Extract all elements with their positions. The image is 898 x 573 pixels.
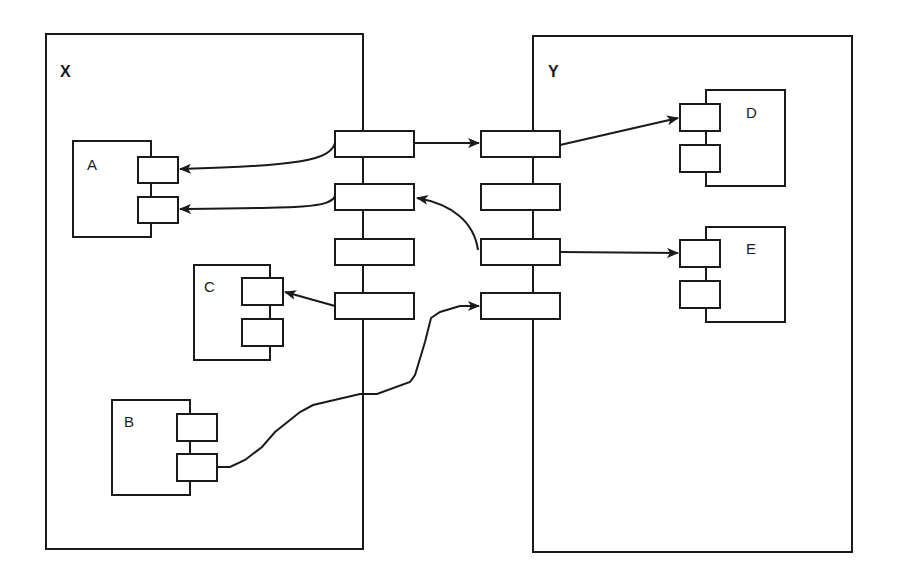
component-d-port-1[interactable] bbox=[680, 104, 720, 131]
diagram-canvas bbox=[0, 0, 898, 573]
component-c-port-1[interactable] bbox=[242, 278, 283, 305]
component-d-label: D bbox=[746, 105, 757, 120]
x-port-1[interactable] bbox=[335, 131, 414, 157]
component-e-port-1[interactable] bbox=[680, 240, 720, 267]
x-port-3[interactable] bbox=[335, 239, 414, 265]
y-port-2[interactable] bbox=[481, 184, 560, 210]
y-port-3[interactable] bbox=[481, 239, 560, 265]
y-port-4[interactable] bbox=[481, 293, 560, 319]
component-c-label: C bbox=[204, 279, 215, 294]
component-b-port-1[interactable] bbox=[177, 414, 217, 441]
component-e-port-2[interactable] bbox=[680, 281, 720, 308]
component-a-port-2[interactable] bbox=[138, 197, 178, 223]
connector-y3-to-e1[interactable] bbox=[560, 252, 678, 253]
x-port-4[interactable] bbox=[335, 293, 414, 319]
component-e-label: E bbox=[746, 241, 756, 256]
component-c-port-2[interactable] bbox=[242, 319, 283, 346]
container-y-label: Y bbox=[548, 64, 559, 80]
component-a-label: A bbox=[87, 157, 97, 172]
connector-y3-to-x2[interactable] bbox=[417, 198, 478, 250]
component-b-port-2[interactable] bbox=[177, 454, 217, 481]
container-x-label: X bbox=[60, 64, 71, 80]
component-b-label: B bbox=[124, 414, 134, 429]
component-a-port-1[interactable] bbox=[138, 157, 178, 183]
component-d-port-2[interactable] bbox=[680, 145, 720, 172]
y-port-1[interactable] bbox=[481, 131, 560, 157]
x-port-2[interactable] bbox=[335, 184, 414, 210]
